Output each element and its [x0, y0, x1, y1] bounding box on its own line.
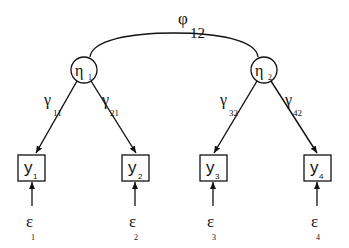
gamma11-symbol: γ — [43, 91, 51, 109]
indicator-y4: y 4 — [304, 155, 331, 181]
covariance-arc — [90, 33, 258, 57]
eta1-subscript: 1 — [88, 73, 92, 82]
gamma21-subscript: 21 — [110, 108, 119, 118]
gamma42-subscript: 42 — [293, 108, 302, 118]
phi-subscript: 12 — [190, 25, 205, 41]
epsilon3-symbol: ε — [207, 212, 214, 231]
gamma32-symbol: γ — [219, 91, 227, 109]
epsilon2-subscript: 2 — [134, 233, 138, 242]
indicator-y3: y 3 — [200, 155, 227, 181]
svg-text:2: 2 — [138, 172, 143, 181]
epsilon1-subscript: 1 — [31, 233, 35, 242]
epsilon4-subscript: 4 — [316, 233, 320, 242]
epsilon2-symbol: ε — [129, 212, 136, 231]
eta1-symbol: η — [75, 62, 83, 80]
phi-symbol: φ — [178, 9, 188, 28]
svg-text:y: y — [128, 158, 137, 177]
gamma11-subscript: 11 — [53, 108, 62, 118]
gamma42-symbol: γ — [284, 91, 292, 109]
eta2-subscript: 2 — [268, 73, 272, 82]
sem-diagram: φ 12 η 1 η 2 γ 11 γ 21 γ 32 γ 42 y 1 y 2… — [0, 0, 349, 248]
eta2-symbol: η — [255, 62, 263, 80]
svg-text:1: 1 — [33, 172, 38, 181]
svg-text:y: y — [310, 158, 319, 177]
svg-text:3: 3 — [215, 172, 220, 181]
indicator-y2: y 2 — [122, 155, 149, 181]
epsilon3-subscript: 3 — [212, 233, 216, 242]
epsilon4-symbol: ε — [311, 212, 318, 231]
svg-text:y: y — [24, 158, 33, 177]
indicator-y1: y 1 — [18, 155, 45, 181]
gamma21-symbol: γ — [101, 91, 109, 109]
svg-text:y: y — [206, 158, 215, 177]
svg-text:4: 4 — [319, 172, 324, 181]
gamma32-subscript: 32 — [229, 108, 238, 118]
epsilon1-symbol: ε — [26, 212, 33, 231]
